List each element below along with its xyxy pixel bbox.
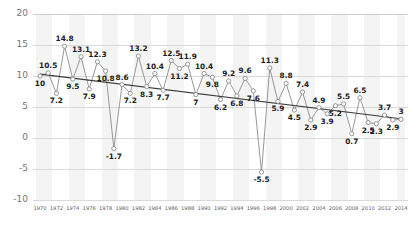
data-point[interactable] [112, 146, 116, 150]
data-point[interactable] [300, 90, 304, 94]
data-point-label: 5.2 [320, 110, 350, 118]
data-point[interactable] [251, 89, 255, 93]
data-point[interactable] [38, 74, 42, 78]
data-point-label: 10.4 [140, 63, 170, 71]
y-axis-tick-10: 10 [0, 70, 28, 80]
line-chart: 20151050-5-10 1010.57.214.89.513.17.912.… [0, 0, 416, 240]
gridline [33, 200, 408, 201]
data-point-label: 11.3 [255, 57, 285, 65]
data-point-label: 9.5 [58, 83, 88, 91]
data-point[interactable] [54, 91, 58, 95]
data-point-label: 12.3 [82, 51, 112, 59]
y-axis-tick-neg10: -10 [0, 194, 28, 204]
y-axis-tick-5: 5 [0, 101, 28, 111]
data-point-label: 9.8 [197, 81, 227, 89]
data-point-label: 7.9 [74, 93, 104, 101]
data-point-label: 2.9 [378, 124, 408, 132]
data-point-label: 7.4 [288, 81, 318, 89]
data-point[interactable] [366, 120, 370, 124]
data-point-label: 7.7 [148, 94, 178, 102]
data-point[interactable] [104, 69, 108, 73]
y-axis-labels: 20151050-5-10 [0, 14, 30, 200]
data-point-label: 4.5 [279, 114, 309, 122]
data-point-label: 9.6 [230, 67, 260, 75]
y-axis-tick-0: 0 [0, 132, 28, 142]
plot-area: 1010.57.214.89.513.17.912.310.8-1.78.67.… [33, 14, 408, 200]
data-point-label: 7.2 [41, 97, 71, 105]
data-point-label: 11.9 [173, 53, 203, 61]
data-point[interactable] [341, 102, 345, 106]
data-point[interactable] [153, 71, 157, 75]
data-point[interactable] [95, 60, 99, 64]
y-axis-tick-neg5: -5 [0, 163, 28, 173]
data-point-label: 11.2 [164, 73, 194, 81]
data-point[interactable] [202, 71, 206, 75]
data-point-label: -1.7 [99, 153, 129, 161]
data-point-label: 10 [25, 80, 55, 88]
data-point[interactable] [276, 99, 280, 103]
y-axis-tick-15: 15 [0, 39, 28, 49]
data-point-label: -5.5 [247, 176, 277, 184]
data-point-label: 6.5 [345, 87, 375, 95]
data-point[interactable] [194, 93, 198, 97]
data-point[interactable] [391, 118, 395, 122]
data-point[interactable] [71, 77, 75, 81]
data-point-label: 0.7 [337, 138, 367, 146]
data-point-label: 8.6 [107, 74, 137, 82]
data-point[interactable] [46, 71, 50, 75]
x-axis-tick-2014: 2014 [389, 205, 413, 211]
data-point-label: 14.8 [50, 35, 80, 43]
data-point-label: 3 [386, 108, 416, 116]
data-point[interactable] [145, 84, 149, 88]
data-point[interactable] [259, 170, 263, 174]
data-point[interactable] [120, 83, 124, 87]
data-point-label: 7.2 [115, 97, 145, 105]
data-point[interactable] [399, 117, 403, 121]
data-point[interactable] [268, 66, 272, 70]
x-axis-labels: 1970197219741976197819801982198419861988… [33, 205, 408, 219]
data-point[interactable] [136, 54, 140, 58]
data-point-label: 7.6 [238, 95, 268, 103]
data-point-label: 10.5 [33, 62, 63, 70]
data-point-label: 13.2 [123, 45, 153, 53]
data-point[interactable] [177, 66, 181, 70]
data-point-label: 3.9 [312, 118, 342, 126]
y-axis-tick-20: 20 [0, 8, 28, 18]
